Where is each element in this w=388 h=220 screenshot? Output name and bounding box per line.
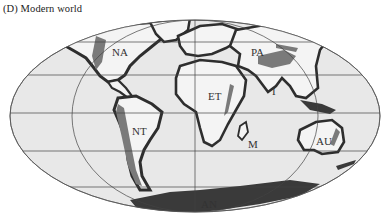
- label-et: ET: [208, 90, 222, 102]
- label-m: M: [248, 138, 258, 150]
- label-nt: NT: [132, 125, 147, 137]
- world-map: NA PA ET I NT M AU AN: [0, 0, 388, 220]
- label-au: AU: [316, 135, 332, 147]
- label-i: I: [272, 85, 276, 97]
- label-na: NA: [112, 46, 128, 58]
- label-pa: PA: [251, 46, 264, 58]
- label-an: AN: [201, 198, 217, 210]
